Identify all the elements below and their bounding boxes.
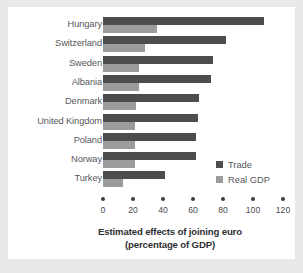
bar-trade-albania	[103, 75, 211, 83]
bar-real-gdp-albania	[103, 83, 139, 91]
chart-legend: TradeReal GDP	[216, 159, 294, 189]
axis-title-line-2: (percentage of GDP)	[60, 239, 280, 252]
category-label-sweden: Sweden	[12, 58, 102, 69]
legend-label: Real GDP	[228, 174, 270, 186]
x-tick-dot	[281, 197, 285, 201]
category-label-turkey: Turkey	[12, 173, 102, 184]
x-tick-dot	[221, 197, 225, 201]
bar-real-gdp-united-kingdom	[103, 122, 135, 130]
chart-row: Sweden	[8, 56, 295, 75]
x-tick-label: 80	[208, 205, 238, 215]
bar-group	[103, 56, 283, 75]
bar-trade-turkey	[103, 171, 165, 179]
x-tick-label: 120	[268, 205, 298, 215]
chart-row: Poland	[8, 133, 295, 152]
bar-real-gdp-sweden	[103, 64, 139, 72]
bar-real-gdp-switzerland	[103, 44, 145, 52]
legend-item-real-gdp[interactable]: Real GDP	[216, 174, 294, 187]
chart-row: Switzerland	[8, 36, 295, 55]
category-label-hungary: Hungary	[12, 19, 102, 30]
x-tick-label: 60	[178, 205, 208, 215]
legend-swatch-icon	[216, 176, 223, 183]
bar-trade-sweden	[103, 56, 213, 64]
category-label-norway: Norway	[12, 154, 102, 165]
category-label-united-kingdom: United Kingdom	[12, 116, 102, 127]
bar-group	[103, 114, 283, 133]
bar-trade-norway	[103, 152, 196, 160]
bar-group	[103, 133, 283, 152]
legend-label: Trade	[228, 159, 252, 171]
bar-trade-poland	[103, 133, 196, 141]
bar-group	[103, 94, 283, 113]
bar-group	[103, 36, 283, 55]
bar-real-gdp-turkey	[103, 179, 123, 187]
chart-plate: HungarySwitzerlandSwedenAlbaniaDenmarkUn…	[8, 7, 295, 259]
x-tick-dot	[101, 197, 105, 201]
bar-trade-denmark	[103, 94, 199, 102]
x-tick-label: 40	[148, 205, 178, 215]
chart-figure: HungarySwitzerlandSwedenAlbaniaDenmarkUn…	[0, 0, 303, 273]
x-tick-dot	[251, 197, 255, 201]
bar-real-gdp-norway	[103, 160, 135, 168]
x-tick-dot	[191, 197, 195, 201]
bar-trade-hungary	[103, 17, 264, 25]
x-tick-dot	[131, 197, 135, 201]
category-label-switzerland: Switzerland	[12, 38, 102, 49]
category-label-denmark: Denmark	[12, 96, 102, 107]
chart-row: Hungary	[8, 17, 295, 36]
chart-row: United Kingdom	[8, 114, 295, 133]
axis-title: Estimated effects of joining euro (perce…	[60, 226, 280, 251]
axis-title-line-1: Estimated effects of joining euro	[60, 226, 280, 239]
chart-row: Albania	[8, 75, 295, 94]
bar-group	[103, 17, 283, 36]
bar-trade-united-kingdom	[103, 114, 198, 122]
bar-group	[103, 75, 283, 94]
x-axis: 020406080100120	[103, 197, 283, 223]
legend-swatch-icon	[216, 161, 223, 168]
bar-real-gdp-poland	[103, 141, 135, 149]
category-label-poland: Poland	[12, 135, 102, 146]
bar-trade-switzerland	[103, 36, 226, 44]
bar-real-gdp-hungary	[103, 25, 157, 33]
legend-item-trade[interactable]: Trade	[216, 159, 294, 172]
x-tick-label: 0	[88, 205, 118, 215]
x-tick-label: 100	[238, 205, 268, 215]
bar-real-gdp-denmark	[103, 102, 136, 110]
chart-row: Denmark	[8, 94, 295, 113]
category-label-albania: Albania	[12, 77, 102, 88]
x-tick-label: 20	[118, 205, 148, 215]
x-tick-dot	[161, 197, 165, 201]
